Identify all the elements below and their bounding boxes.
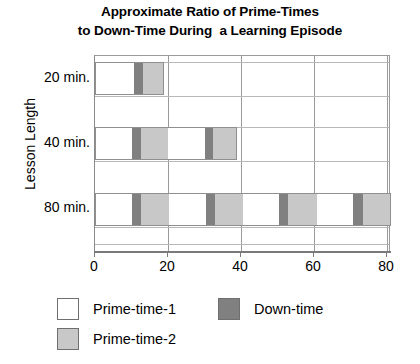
chart-title-line-1: Approximate Ratio of Prime-Times <box>101 4 319 19</box>
bar-segment-prime-time-1 <box>95 127 132 160</box>
bar-segment-down-time <box>132 127 141 160</box>
bar-segment-prime-time-1 <box>317 193 354 226</box>
chart-legend: Prime-time-1Down-timePrime-time-2 <box>0 296 420 364</box>
legend-label-down-time: Down-time <box>254 301 323 317</box>
legend-item-prime-time-2[interactable]: Prime-time-2 <box>57 328 176 350</box>
bar-segment-prime-time-2 <box>141 193 169 226</box>
bar-segment-prime-time-2 <box>143 62 164 95</box>
y-tick-label-1: 40 min. <box>20 134 90 150</box>
x-axis-line <box>94 251 391 253</box>
legend-item-down-time[interactable]: Down-time <box>218 298 323 320</box>
x-tick-mark-0 <box>94 251 95 257</box>
bar-segment-down-time <box>206 193 215 226</box>
legend-label-prime-time-2: Prime-time-2 <box>93 331 176 347</box>
y-tick-label-0: 20 min. <box>20 69 90 85</box>
x-tick-label-60: 60 <box>291 258 335 274</box>
x-tick-label-80: 80 <box>364 258 408 274</box>
y-tick-label-2: 80 min. <box>20 199 90 215</box>
bar-segment-down-time <box>134 62 143 95</box>
x-tick-label-20: 20 <box>145 258 189 274</box>
bar-segment-prime-time-2 <box>213 127 237 160</box>
legend-swatch-prime-time-1 <box>57 298 79 320</box>
bar-80-min- <box>95 193 391 226</box>
x-tick-mark-20 <box>167 251 168 257</box>
bar-segment-prime-time-2 <box>215 193 242 226</box>
bar-segment-prime-time-2 <box>141 127 168 160</box>
bar-20-min- <box>95 62 164 95</box>
bar-40-min- <box>95 127 237 160</box>
x-tick-mark-80 <box>386 251 387 257</box>
band-line <box>95 227 389 228</box>
legend-label-prime-time-1: Prime-time-1 <box>93 301 176 317</box>
legend-swatch-prime-time-2 <box>57 328 79 350</box>
band-line <box>95 96 389 97</box>
legend-swatch-down-time <box>218 298 240 320</box>
bar-segment-prime-time-1 <box>95 193 132 226</box>
bar-segment-prime-time-1 <box>168 127 205 160</box>
bar-segment-prime-time-1 <box>169 193 206 226</box>
x-tick-mark-60 <box>313 251 314 257</box>
bar-segment-prime-time-2 <box>363 193 391 226</box>
bar-segment-prime-time-1 <box>95 62 134 95</box>
plot-area <box>94 55 390 251</box>
x-tick-mark-40 <box>240 251 241 257</box>
y-axis-tick-labels: 20 min.40 min.80 min. <box>18 0 90 240</box>
band-line <box>95 161 389 162</box>
bar-segment-down-time <box>132 193 141 226</box>
x-tick-label-40: 40 <box>218 258 262 274</box>
band-line <box>95 244 389 245</box>
legend-item-prime-time-1[interactable]: Prime-time-1 <box>57 298 176 320</box>
bar-segment-prime-time-2 <box>288 193 316 226</box>
bar-segment-prime-time-1 <box>243 193 280 226</box>
chart-container: Approximate Ratio of Prime-Times to Down… <box>0 0 420 364</box>
bar-segment-down-time <box>279 193 288 226</box>
bar-segment-down-time <box>353 193 362 226</box>
bar-segment-down-time <box>205 127 213 160</box>
x-tick-label-0: 0 <box>72 258 116 274</box>
